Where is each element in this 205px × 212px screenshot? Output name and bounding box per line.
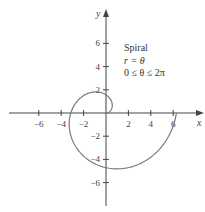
x-tick-label: −4	[56, 119, 66, 129]
x-axis-label: x	[196, 117, 202, 128]
x-tick-label: 4	[149, 119, 154, 129]
legend-equation: r = θ	[124, 55, 145, 66]
legend: Spiral r = θ 0 ≤ θ ≤ 2π	[124, 42, 165, 78]
x-tick-label: 2	[126, 119, 131, 129]
y-axis-label: y	[95, 8, 101, 19]
y-tick-label: 6	[96, 38, 101, 48]
axes: −6−4−2246642−2−4−6	[9, 9, 204, 206]
y-tick-label: −6	[90, 178, 100, 188]
y-tick-label: 4	[96, 62, 101, 72]
spiral-curve	[69, 92, 176, 169]
legend-title: Spiral	[124, 42, 148, 53]
x-tick-label: −2	[79, 119, 89, 129]
legend-domain: 0 ≤ θ ≤ 2π	[124, 67, 165, 78]
x-tick-label: −6	[34, 119, 44, 129]
y-tick-label: −2	[90, 131, 100, 141]
y-tick-label: 2	[96, 85, 101, 95]
spiral-chart: −6−4−2246642−2−4−6 x y Spiral r = θ 0 ≤ …	[0, 0, 205, 212]
x-axis-arrow-icon	[196, 110, 204, 116]
y-axis-arrow-icon	[103, 9, 109, 17]
